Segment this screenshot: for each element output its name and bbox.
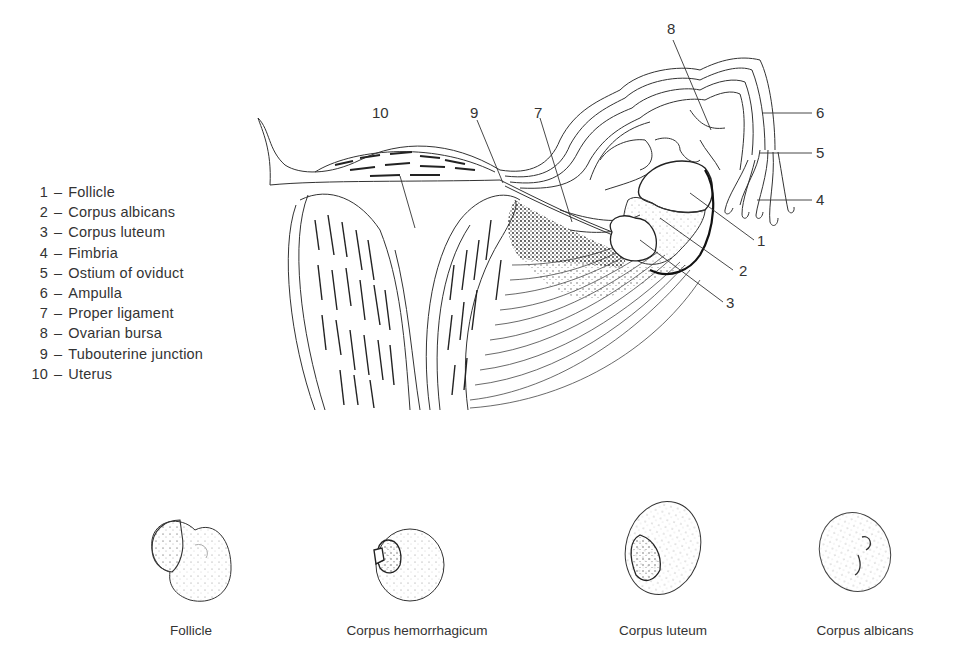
stage-corpus-albicans-illustration (808, 502, 901, 601)
legend-item: 4–Fimbria (28, 243, 203, 263)
stage-label-follicle: Follicle (170, 623, 212, 638)
callout-5-ostium: 5 (816, 144, 824, 161)
legend-label: Corpus luteum (68, 222, 165, 242)
legend-item: 3–Corpus luteum (28, 222, 203, 242)
callout-3-corpus-luteum: 3 (726, 294, 734, 311)
legend-label: Ampulla (68, 283, 122, 303)
legend-item: 8–Ovarian bursa (28, 323, 203, 343)
legend-item: 1–Follicle (28, 182, 203, 202)
stage-corpus-luteum-illustration (615, 493, 711, 603)
stage-label-corpus-albicans: Corpus albicans (817, 623, 914, 638)
legend: 1–Follicle 2–Corpus albicans 3–Corpus lu… (28, 182, 203, 384)
legend-label: Uterus (68, 364, 112, 384)
stage-follicle-illustration (152, 520, 231, 601)
stage-label-corpus-luteum: Corpus luteum (619, 623, 707, 638)
legend-item: 5–Ostium of oviduct (28, 263, 203, 283)
legend-label: Corpus albicans (68, 202, 175, 222)
callout-9-tubouterine-junction: 9 (470, 104, 478, 121)
legend-item: 6–Ampulla (28, 283, 203, 303)
legend-label: Ovarian bursa (68, 323, 162, 343)
legend-label: Tubouterine junction (68, 344, 203, 364)
stage-label-corpus-hemorrhagicum: Corpus hemorrhagicum (346, 623, 487, 638)
legend-item: 9–Tubouterine junction (28, 344, 203, 364)
legend-label: Ostium of oviduct (68, 263, 183, 283)
callout-10-uterus: 10 (372, 104, 389, 121)
callout-1-follicle: 1 (757, 232, 765, 249)
legend-label: Fimbria (68, 243, 118, 263)
callout-2-corpus-albicans: 2 (739, 262, 747, 279)
callout-4-fimbria: 4 (816, 191, 824, 208)
stage-corpus-hemorrhagicum-illustration (374, 529, 444, 601)
callout-7-proper-ligament: 7 (534, 104, 542, 121)
legend-item: 2–Corpus albicans (28, 202, 203, 222)
legend-item: 10–Uterus (28, 364, 203, 384)
legend-label: Proper ligament (68, 303, 173, 323)
callout-8-ovarian-bursa: 8 (667, 20, 675, 37)
legend-label: Follicle (68, 182, 115, 202)
callout-6-ampulla: 6 (816, 104, 824, 121)
legend-item: 7–Proper ligament (28, 303, 203, 323)
